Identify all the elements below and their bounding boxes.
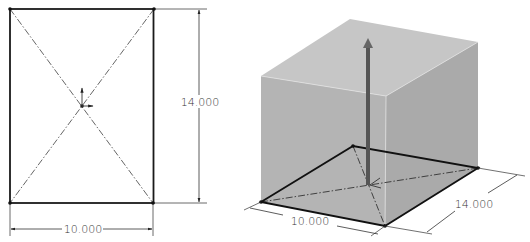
dimension-line-width: [250, 208, 283, 215]
extension-line: [385, 226, 432, 234]
dimension-height-label[interactable]: 14.000: [181, 96, 220, 109]
dimension-depth-label[interactable]: 14.000: [455, 198, 494, 211]
extrusion-3d-view: 10.000 14.000: [244, 19, 525, 236]
dimension-width-label[interactable]: 10.000: [64, 223, 103, 236]
extension-line: [371, 226, 385, 236]
dimension-line-depth: [427, 211, 455, 232]
sketch-vertex[interactable]: [152, 7, 156, 11]
sketch-vertex[interactable]: [151, 201, 155, 205]
dimension-line-width: [337, 226, 378, 234]
sketch-2d-view: 14.000 10.000: [8, 7, 219, 236]
sketch-vertex[interactable]: [8, 201, 12, 205]
dimension-line-depth: [488, 175, 517, 193]
dimension-width-label[interactable]: 10.000: [291, 215, 330, 228]
cad-figure: 14.000 10.000: [0, 0, 530, 242]
sketch-vertex[interactable]: [8, 7, 12, 11]
sketch-vertex[interactable]: [351, 144, 355, 148]
extension-line: [478, 168, 525, 176]
origin-icon: [80, 88, 93, 108]
